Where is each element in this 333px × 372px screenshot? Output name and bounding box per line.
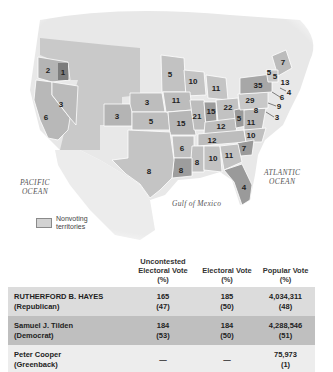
vote-label-virginia: 11 [247,119,255,127]
header-uncontested: Uncontested Electoral Vote (%) [128,257,198,284]
vote-label-maryland: 8 [254,107,258,115]
vote-label-north-carolina: 10 [247,132,256,140]
candidate-name: Samuel J. Tilden [14,321,128,331]
header-text: (%) [198,275,256,284]
value: — [128,355,198,365]
legend-line-1: Nonvoting [56,215,88,223]
vote-label-ohio: 22 [224,104,233,112]
table-header: Uncontested Electoral Vote (%) Electoral… [8,244,315,287]
vote-label-nebraska: 3 [145,99,149,107]
uncontested-cell: 184 (53) [128,321,198,341]
atlantic-ocean-label: ATLANTIC OCEAN [264,168,300,187]
table-row-cooper: Peter Cooper (Greenback) — — 75,973 (1) [8,345,315,372]
percent: (48) [256,302,315,312]
header-popular: Popular Vote (%) [256,266,315,284]
value: 75,973 [256,350,315,360]
vote-label-west-virginia: 5 [237,115,241,123]
vote-label-florida: 4 [242,184,246,192]
vote-label-maine: 7 [281,59,285,67]
vote-label-missouri: 15 [177,120,186,128]
vote-label-oregon-disputed: 1 [61,69,65,77]
map-legend: Nonvoting territories [36,215,88,231]
candidate-name: Peter Cooper [14,350,128,360]
vote-label-illinois: 21 [193,113,202,121]
header-text: Electoral Vote [198,266,256,275]
vote-label-oregon: 2 [46,67,50,75]
uncontested-cell: 165 (47) [128,292,198,312]
table-row-tilden: Samuel J. Tilden (Democrat) 184 (53) 184… [8,316,315,345]
percent: (50) [198,331,256,341]
us-map-graphic [0,0,333,245]
value: — [198,355,256,365]
value: 165 [128,292,198,302]
percent: (1) [256,360,315,370]
vote-label-new-jersey: 9 [277,103,281,111]
percent: (50) [198,302,256,312]
header-electoral: Electoral Vote (%) [198,266,256,284]
candidate-cell: Peter Cooper (Greenback) [14,350,128,370]
vote-label-south-carolina: 7 [242,145,246,153]
election-map: 2 1 3 6 3 3 5 5 11 10 11 15 21 15 22 12 … [0,0,333,245]
vote-label-nevada: 3 [59,101,63,109]
value: 185 [198,292,256,302]
vote-label-new-hampshire: 5 [273,73,277,81]
value: 4,034,311 [256,292,315,302]
vote-label-kansas: 5 [149,118,153,126]
atlantic-line-1: ATLANTIC [264,168,300,177]
vote-label-indiana: 15 [207,108,216,116]
percent: (53) [128,331,198,341]
vote-label-arkansas: 6 [180,145,184,153]
uncontested-cell: — [128,355,198,365]
candidate-party: (Republican) [14,302,128,312]
vote-label-iowa: 11 [172,97,180,105]
results-table: Uncontested Electoral Vote (%) Electoral… [8,244,315,372]
popular-cell: 4,034,311 (48) [256,292,315,312]
vote-label-kentucky: 12 [217,123,226,131]
vote-label-california: 6 [44,114,48,122]
header-text: Electoral Vote [128,266,198,275]
candidate-cell: Samuel J. Tilden (Democrat) [14,321,128,341]
gulf-of-mexico-label: Gulf of Mexico [172,199,221,208]
popular-cell: 4,288,546 (51) [256,321,315,341]
candidate-party: (Democrat) [14,331,128,341]
header-text: Popular Vote [256,266,315,275]
header-text: (%) [128,275,198,284]
legend-line-2: territories [56,223,88,231]
vote-label-pennsylvania: 29 [246,97,255,105]
vote-label-connecticut: 6 [280,94,284,102]
vote-label-texas: 8 [147,168,151,176]
pacific-line-2: OCEAN [20,187,50,196]
legend-label: Nonvoting territories [56,215,88,231]
value: 184 [198,321,256,331]
vote-label-massachusetts: 13 [281,79,290,87]
vote-label-alabama: 10 [209,155,218,163]
candidate-cell: RUTHERFORD B. HAYES (Republican) [14,292,128,312]
percent: (51) [256,331,315,341]
vote-label-vermont: 5 [267,69,271,77]
vote-label-colorado: 3 [115,113,119,121]
header-text: Uncontested [128,257,198,266]
electoral-cell: 185 (50) [198,292,256,312]
percent: (47) [128,302,198,312]
electoral-cell: — [198,355,256,365]
vote-label-louisiana: 8 [179,167,183,175]
value: 4,288,546 [256,321,315,331]
pacific-ocean-label: PACIFIC OCEAN [20,178,50,197]
electoral-cell: 184 (50) [198,321,256,341]
table-row-hayes: RUTHERFORD B. HAYES (Republican) 165 (47… [8,287,315,316]
vote-label-michigan: 11 [212,85,220,93]
vote-label-tennessee: 12 [208,137,217,145]
vote-label-wisconsin: 10 [189,78,198,86]
vote-label-delaware: 3 [275,114,279,122]
vote-label-new-york: 35 [254,82,263,90]
popular-cell: 75,973 (1) [256,350,315,370]
pacific-line-1: PACIFIC [20,178,50,187]
nonvoting-swatch [36,218,52,228]
candidate-party: (Greenback) [14,360,128,370]
vote-label-mississippi: 8 [195,159,199,167]
atlantic-line-2: OCEAN [264,177,300,186]
value: 184 [128,321,198,331]
vote-label-georgia: 11 [225,152,233,160]
vote-label-rhode-island: 4 [287,89,291,97]
vote-label-minnesota: 5 [168,71,172,79]
